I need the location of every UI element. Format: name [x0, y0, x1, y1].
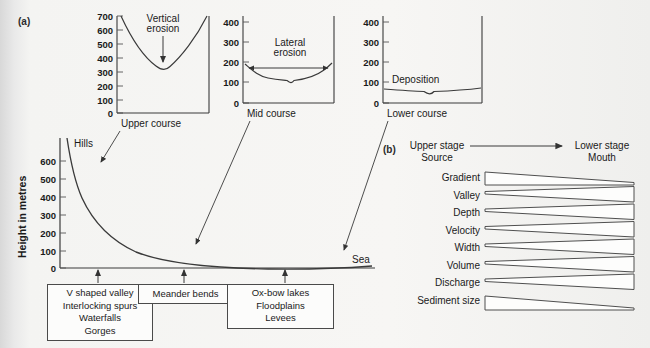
tick-400: 400: [97, 53, 113, 64]
variables-panel: [470, 146, 634, 310]
tick-0: 0: [108, 108, 113, 119]
hills-label: Hills: [74, 138, 93, 149]
tick-100: 100: [97, 95, 113, 106]
tick-600: 600: [97, 25, 113, 36]
tick-300: 300: [97, 67, 113, 78]
wedge-volume: [485, 257, 634, 273]
tick-200: 200: [223, 57, 239, 68]
wedge-sediment-size: [485, 296, 634, 310]
long-profile-y-axis-title: Height in metres: [16, 176, 28, 258]
tick-400: 400: [40, 192, 56, 203]
tick-500: 500: [40, 174, 56, 185]
wedge-valley: [485, 187, 634, 203]
tick-300: 300: [223, 37, 239, 48]
tick-200: 200: [40, 228, 56, 239]
mid-course-caption: Mid course: [247, 108, 296, 119]
tick-0: 0: [234, 98, 239, 109]
long-profile-y-axis: 600 500 400 300 200 100 0: [40, 156, 66, 274]
feature-middle-line-1: Meander bends: [139, 288, 232, 299]
tick-200: 200: [97, 81, 113, 92]
upper-course-caption: Upper course: [121, 118, 181, 129]
tick-100: 100: [223, 77, 239, 88]
variables-left-heading-line2: Source: [404, 152, 470, 164]
feature-upper-line-4: Gorges: [48, 325, 152, 338]
feature-lower-line-1: Ox-bow lakes: [228, 287, 333, 300]
variable-label-volume: Volume: [398, 260, 480, 271]
tick-400: 400: [363, 17, 379, 28]
variables-left-heading-line1: Upper stage: [404, 140, 470, 152]
vertical-erosion-label-line2: erosion: [147, 23, 180, 34]
tick-200: 200: [363, 57, 379, 68]
tick-300: 300: [40, 210, 56, 221]
tick-0: 0: [51, 263, 56, 274]
feature-upper-line-2: Interlocking spurs: [48, 300, 152, 313]
panel-b-tag: (b): [383, 144, 396, 155]
feature-box-lower: Ox-bow lakes Floodplains Levees: [227, 284, 334, 329]
figure-canvas: (a) 700 600 500: [0, 0, 650, 348]
tick-600: 600: [40, 156, 56, 167]
variable-label-velocity: Velocity: [398, 225, 480, 236]
tick-400: 400: [223, 17, 239, 28]
tick-100: 100: [40, 246, 56, 257]
feature-box-middle: Meander bends: [138, 284, 233, 304]
variable-label-depth: Depth: [398, 207, 480, 218]
sea-label: Sea: [352, 254, 370, 265]
long-profile-chart: 600 500 400 300 200 100 0 Height in metr…: [16, 138, 375, 283]
mid-course-y-axis: 400 300 200 100 0: [223, 17, 249, 109]
feature-lower-line-2: Floodplains: [228, 300, 333, 313]
deposition-label: Deposition: [392, 74, 439, 85]
tick-0: 0: [374, 98, 379, 109]
wedge-discharge: [485, 274, 634, 290]
variable-label-gradient: Gradient: [398, 172, 480, 183]
feature-upper-line-3: Waterfalls: [48, 312, 152, 325]
tick-100: 100: [363, 77, 379, 88]
lower-course-caption: Lower course: [387, 108, 447, 119]
feature-upper-line-1: V shaped valley: [48, 287, 152, 300]
lower-course-y-axis: 400 300 200 100 0: [363, 17, 389, 109]
lateral-erosion-label-line2: erosion: [274, 47, 307, 58]
variables-right-heading-line2: Mouth: [566, 152, 638, 164]
wedge-depth: [485, 204, 634, 220]
variable-label-discharge: Discharge: [396, 277, 480, 288]
variables-right-heading: Lower stage Mouth: [566, 140, 638, 163]
variables-left-heading: Upper stage Source: [404, 140, 470, 163]
wedge-width: [485, 239, 634, 255]
tick-300: 300: [363, 37, 379, 48]
tick-500: 500: [97, 39, 113, 50]
tick-700: 700: [97, 11, 113, 22]
cross-section-upper-course: 700 600 500 400 300 200 100 0: [97, 11, 209, 163]
feature-lower-line-3: Levees: [228, 312, 333, 325]
variable-label-width: Width: [398, 242, 480, 253]
variables-right-heading-line1: Lower stage: [566, 140, 638, 152]
cross-section-mid-course: 400 300 200 100 0 Lateral erosion Mid co…: [196, 16, 334, 244]
wedge-gradient: [485, 172, 634, 185]
variable-label-valley: Valley: [398, 190, 480, 201]
variable-label-sediment-size: Sediment size: [390, 295, 480, 306]
wedge-velocity: [485, 222, 634, 238]
upper-course-y-axis: 700 600 500 400 300 200 100 0: [97, 11, 123, 119]
